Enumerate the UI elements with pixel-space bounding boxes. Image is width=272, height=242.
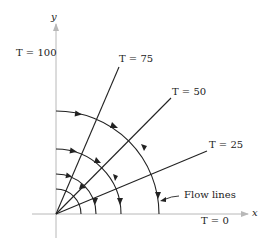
x-axis-label: x: [252, 208, 258, 218]
label-t50: T = 50: [172, 87, 206, 97]
y-axis-label: y: [51, 12, 57, 22]
label-t0: T = 0: [201, 216, 229, 226]
flow-lines-label: Flow lines: [184, 190, 236, 200]
label-t25: T = 25: [209, 140, 243, 150]
label-t75: T = 75: [119, 54, 153, 64]
label-t100: T = 100: [16, 48, 57, 58]
diagram-canvas: [0, 0, 272, 242]
leader-arrow-icon: [160, 197, 166, 202]
